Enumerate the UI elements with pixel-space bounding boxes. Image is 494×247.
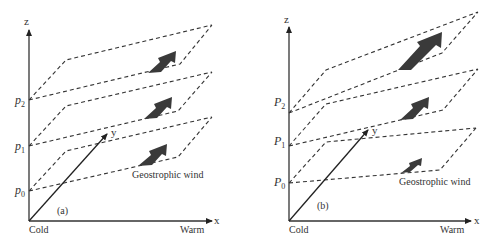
isobaric-plane-p2 [289,12,478,113]
cold-label: Cold [289,224,308,235]
panel-a: z x y p2 p1 p0 Geostrophic wind (a) Cold… [14,15,220,235]
isobaric-plane-p0 [289,128,476,183]
x-axis-label: x [214,214,220,226]
diagram-canvas: z x y p2 p1 p0 Geostrophic wind (a) Cold… [0,0,494,247]
panel-b: z x y P2 P1 P0 Geostrophic wind (b) Cold… [273,12,480,235]
level-label-p1: P1 [273,134,285,150]
y-axis-label: y [372,124,378,136]
isobaric-plane-p2 [29,25,212,100]
geostrophic-wind-arrow-p1 [144,97,172,119]
level-label-p2: p2 [14,93,25,109]
z-axis-label: z [24,15,29,27]
geostrophic-wind-arrow-p2 [148,51,176,73]
wind-label: Geostrophic wind [399,176,470,187]
panel-label: (b) [317,200,329,212]
level-label-p0: P0 [273,175,285,191]
z-axis-label: z [284,13,289,25]
level-label-p0: p0 [14,183,25,199]
geostrophic-wind-arrow-p2 [398,32,442,70]
level-label-p1: p1 [14,139,25,155]
x-axis-label: x [474,214,480,226]
warm-label: Warm [440,224,464,235]
wind-label: Geostrophic wind [132,169,203,180]
isobaric-plane-p1 [29,72,212,146]
level-label-p2: P2 [273,95,285,111]
panel-label: (a) [57,205,68,217]
warm-label: Warm [180,224,204,235]
geostrophic-wind-arrow-p0 [138,144,167,166]
y-axis-label: y [111,126,117,138]
geostrophic-wind-arrow-p0 [401,158,422,173]
cold-label: Cold [29,224,48,235]
geostrophic-wind-arrow-p1 [400,97,429,120]
